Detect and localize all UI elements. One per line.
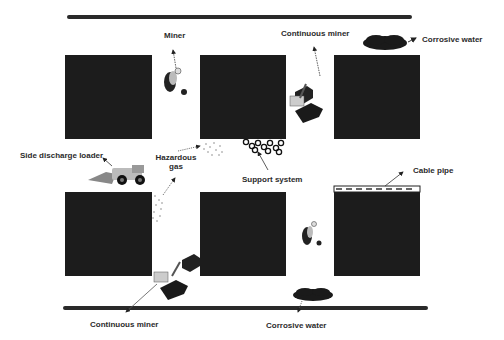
mine-layout-diagram: Miner Continuous miner Corrosive water S… <box>0 0 504 340</box>
hazardous-gas-lower-icon <box>152 195 163 222</box>
gas-lower-arrow <box>163 178 175 195</box>
loader-arrow <box>103 158 112 166</box>
label-hazardous-gas: Hazardous gas <box>155 153 197 171</box>
support-system-arrow <box>258 152 268 170</box>
label-miner: Miner <box>164 31 185 40</box>
label-hazardous-gas-line1: Hazardous <box>155 153 197 162</box>
continuous-miner-bottom-arrow <box>126 284 157 312</box>
miner-arrow <box>173 50 176 68</box>
label-continuous-miner-top: Continuous miner <box>281 29 349 38</box>
label-cable-pipe: Cable pipe <box>413 166 453 175</box>
label-corrosive-water-bottom: Corrosive water <box>266 321 326 330</box>
hazardous-gas-upper-icon <box>203 142 223 156</box>
continuous-miner-icon <box>290 84 323 123</box>
corrosive-water-bottom-icon <box>293 288 333 301</box>
corrosive-water-top-arrow <box>408 38 416 42</box>
support-system-icon <box>243 139 283 154</box>
corrosive-water-top-icon <box>363 35 407 50</box>
continuous-miner-bottom-icon <box>154 254 200 300</box>
label-side-discharge-loader: Side discharge loader <box>20 151 103 160</box>
miner-bottom-icon <box>302 222 322 246</box>
label-support-system: Support system <box>242 175 302 184</box>
side-discharge-loader-icon <box>88 165 145 185</box>
label-hazardous-gas-line2: gas <box>155 162 197 171</box>
corrosive-water-bottom-arrow <box>298 301 302 312</box>
label-continuous-miner-bottom: Continuous miner <box>90 320 158 329</box>
label-corrosive-water-top: Corrosive water <box>422 35 482 44</box>
cable-pipe-icon <box>334 186 420 192</box>
miner-icon <box>164 68 187 95</box>
gas-upper-arrow <box>178 146 200 151</box>
continuous-miner-top-arrow <box>314 47 320 76</box>
cable-pipe-arrow <box>385 172 403 186</box>
